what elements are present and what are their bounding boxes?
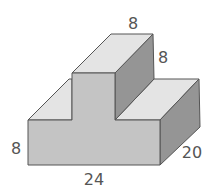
- label-base-length: 24: [84, 170, 104, 189]
- label-depth: 20: [182, 143, 202, 162]
- t-shaped-solid-diagram: 8 8 8 24 20: [0, 0, 214, 193]
- left-shelf-top-face: [28, 79, 72, 120]
- label-base-height: 8: [11, 139, 21, 158]
- label-top-width: 8: [128, 14, 138, 33]
- label-top-height: 8: [158, 48, 168, 67]
